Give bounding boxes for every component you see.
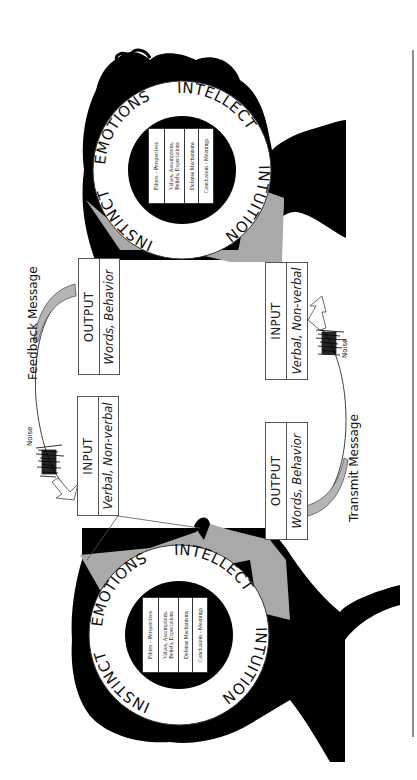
transmit-message-label: Transmit Message [347, 414, 361, 522]
filter-defense: Defense Mechanisms [178, 598, 193, 672]
top-filters-box: Filters – Perspectives Values, Assumptio… [148, 128, 214, 204]
box-subtitle: Verbal, Non-verbal [101, 402, 115, 509]
noise-right-label: Noise [341, 339, 349, 358]
box-title: OUTPUT [82, 291, 96, 342]
bottom-filters-box: Filters – Perspectives Values, Assumptio… [142, 597, 208, 673]
box-subtitle: Words, Behavior [102, 269, 116, 364]
transmit-arrow [306, 296, 348, 516]
filter-values: Values, Assumptions, Beliefs, Expectatio… [158, 598, 178, 672]
feedback-message-label: Feedback Message [26, 266, 40, 380]
filter-conclusions: Conclusions - Meanings [192, 598, 207, 672]
right-output-box: OUTPUT Words, Behavior [265, 422, 308, 540]
filter-perspectives: Filters – Perspectives [143, 598, 158, 672]
filter-defense: Defense Mechanisms [184, 129, 199, 203]
left-output-box: OUTPUT Words, Behavior [78, 258, 120, 375]
filter-perspectives: Filters – Perspectives [149, 129, 164, 203]
box-title: OUTPUT [269, 456, 283, 507]
left-input-box: INPUT Verbal, Non-verbal [77, 396, 119, 516]
diagram-graphics: INSTINCT EMOTIONS INTELLECT INTUITION IN… [0, 0, 417, 780]
box-subtitle: Verbal, Non-verbal [290, 267, 304, 374]
communication-diagram: INSTINCT EMOTIONS INTELLECT INTUITION IN… [0, 0, 417, 780]
noise-left-label: Noise [26, 427, 34, 446]
noise-left-icon [36, 445, 64, 477]
box-title: INPUT [269, 302, 283, 339]
right-input-box: INPUT Verbal, Non-verbal [265, 262, 308, 380]
filter-values: Values, Assumptions, Beliefs, Expectatio… [164, 129, 184, 203]
box-title: INPUT [81, 437, 95, 474]
filter-conclusions: Conclusions - Meanings [198, 129, 213, 203]
box-subtitle: Words, Behavior [290, 434, 304, 529]
